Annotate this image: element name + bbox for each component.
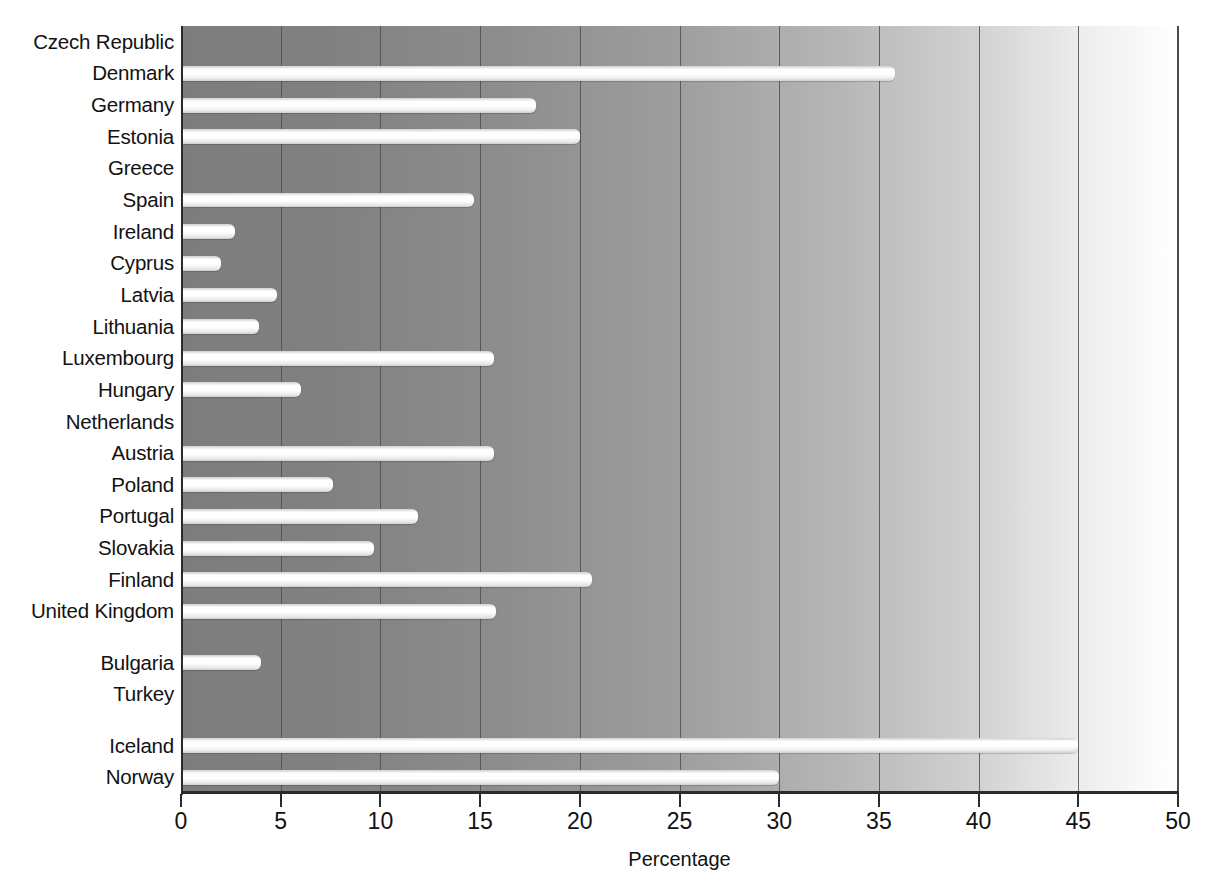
plot-area [181,26,1178,793]
bar [181,446,494,461]
category-label-denmark: Denmark [92,63,174,84]
bar [181,770,779,785]
bar-row [181,647,1178,679]
bar-row [181,596,1178,628]
bar [181,541,374,556]
x-tick-label-5: 5 [274,810,287,833]
bar [181,351,494,366]
x-tick-5 [280,794,282,807]
x-tick-label-30: 30 [766,810,792,833]
bar [181,382,301,397]
category-label-austria: Austria [112,443,174,464]
category-label-luxembourg: Luxembourg [62,348,174,369]
category-label-turkey: Turkey [113,684,174,705]
category-label-finland: Finland [108,570,174,591]
bar-row [181,564,1178,596]
bar-row [181,184,1178,216]
x-axis-title: Percentage [181,848,1178,871]
bar [181,98,536,113]
category-label-iceland: Iceland [109,736,174,757]
bar-row [181,247,1178,279]
bar-chart: Czech RepublicDenmarkGermanyEstoniaGreec… [0,0,1214,896]
bar-row [181,58,1178,90]
category-label-estonia: Estonia [107,127,174,148]
bar-row [181,761,1178,793]
x-tick-label-40: 40 [966,810,992,833]
category-label-germany: Germany [91,95,174,116]
bar [181,655,261,670]
category-label-norway: Norway [106,767,174,788]
bar [181,572,592,587]
bar-row [181,216,1178,248]
bar-row [181,469,1178,501]
x-tick-50 [1177,794,1179,807]
category-label-portugal: Portugal [99,506,174,527]
category-label-latvia: Latvia [120,285,174,306]
x-tick-10 [379,794,381,807]
bar [181,129,580,144]
bar [181,319,259,334]
x-tick-0 [180,794,182,807]
category-label-bulgaria: Bulgaria [100,653,174,674]
bar-row [181,437,1178,469]
category-label-netherlands: Netherlands [66,412,174,433]
x-tick-15 [479,794,481,807]
x-tick-20 [579,794,581,807]
bar-row [181,374,1178,406]
bar [181,477,333,492]
bar-row [181,279,1178,311]
bar-row [181,678,1178,710]
category-label-cyprus: Cyprus [110,253,174,274]
category-label-hungary: Hungary [98,380,174,401]
x-tick-label-50: 50 [1165,810,1191,833]
bar [181,288,277,303]
x-tick-label-0: 0 [175,810,188,833]
x-tick-25 [679,794,681,807]
bar [181,509,418,524]
bar-row [181,730,1178,762]
category-label-greece: Greece [108,158,174,179]
plot-right-border [1177,26,1179,795]
category-label-slovakia: Slovakia [98,538,174,559]
x-tick-label-15: 15 [467,810,493,833]
y-axis-category-labels: Czech RepublicDenmarkGermanyEstoniaGreec… [0,26,174,793]
x-tick-label-20: 20 [567,810,593,833]
category-label-czech-republic: Czech Republic [33,32,174,53]
x-tick-label-35: 35 [866,810,892,833]
x-tick-label-25: 25 [667,810,693,833]
bar-row [181,121,1178,153]
bar-row [181,153,1178,185]
bar-row [181,89,1178,121]
bar [181,738,1078,753]
bar-row [181,342,1178,374]
bar-row [181,311,1178,343]
bar [181,604,496,619]
bar [181,66,895,81]
category-label-poland: Poland [111,475,174,496]
bar-row [181,532,1178,564]
x-tick-label-10: 10 [368,810,394,833]
x-tick-30 [778,794,780,807]
y-axis-line [181,26,183,795]
category-label-united-kingdom: United Kingdom [31,601,174,622]
category-label-lithuania: Lithuania [93,317,174,338]
bar [181,193,474,208]
category-label-ireland: Ireland [113,222,174,243]
bar-rows [181,26,1178,793]
category-label-spain: Spain [123,190,174,211]
bar [181,256,221,271]
bar-row [181,501,1178,533]
bar-row [181,406,1178,438]
x-tick-45 [1077,794,1079,807]
x-tick-35 [878,794,880,807]
x-tick-label-45: 45 [1066,810,1092,833]
x-tick-40 [978,794,980,807]
bar-row [181,26,1178,58]
bar [181,224,235,239]
